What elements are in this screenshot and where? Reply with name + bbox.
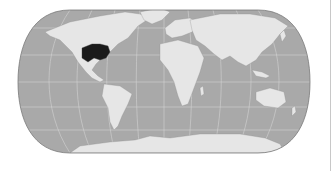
- world-map: [0, 0, 331, 171]
